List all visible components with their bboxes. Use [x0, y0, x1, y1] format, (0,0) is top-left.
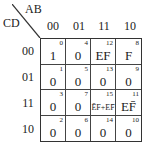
- kmap-cell: 8F: [116, 39, 141, 65]
- cell-value: 0: [91, 125, 115, 141]
- kmap-cell: 60: [66, 116, 91, 142]
- cell-value: 0: [116, 74, 141, 90]
- cell-index: 5: [85, 65, 89, 73]
- kmap-cell: 15ĒF+EF̄: [91, 90, 116, 116]
- cell-value: 0: [66, 74, 90, 90]
- cell-value: EF̄: [116, 99, 141, 115]
- column-header: 00: [40, 19, 66, 34]
- cell-index: 12: [106, 39, 113, 47]
- cell-index: 11: [132, 90, 139, 98]
- cell-index: 15: [106, 90, 113, 98]
- kmap-cell: 140: [91, 116, 116, 142]
- row-header: 01: [16, 70, 40, 85]
- kmap-cell: 50: [66, 65, 91, 91]
- karnaugh-map-grid: 01 40 12EF 8F 10 50 130 90 30 70 15ĒF+E…: [40, 38, 142, 142]
- kmap-cell: 70: [66, 90, 91, 116]
- kmap-cell: 12EF: [91, 39, 116, 65]
- cell-index: 0: [60, 39, 64, 47]
- kmap-cell: 130: [91, 65, 116, 91]
- cell-value: 0: [41, 74, 65, 90]
- kmap-cell: 40: [66, 39, 91, 65]
- column-variable-label: AB: [25, 2, 42, 17]
- column-header: 01: [66, 19, 92, 34]
- cell-index: 3: [60, 90, 64, 98]
- cell-value: 0: [66, 48, 90, 64]
- kmap-cell: 10: [41, 65, 66, 91]
- cell-value: 0: [41, 99, 65, 115]
- column-header: 10: [117, 19, 143, 34]
- cell-index: 1: [60, 65, 64, 73]
- cell-value: 0: [116, 125, 141, 141]
- row-header: 11: [16, 96, 40, 111]
- cell-value: 0: [66, 99, 90, 115]
- cell-value: EF: [91, 48, 115, 64]
- kmap-cell: 20: [41, 116, 66, 142]
- kmap-cell: 11EF̄: [116, 90, 141, 116]
- cell-value: 0: [66, 125, 90, 141]
- row-header: 10: [16, 122, 40, 137]
- cell-value: 0: [41, 125, 65, 141]
- row-header: 00: [16, 44, 40, 59]
- kmap-cell: 100: [116, 116, 141, 142]
- cell-value: ĒF+EF̄: [91, 103, 115, 112]
- cell-value: 1: [41, 48, 65, 64]
- column-header: 11: [91, 19, 117, 34]
- cell-index: 13: [106, 65, 113, 73]
- kmap-cell: 30: [41, 90, 66, 116]
- cell-index: 8: [136, 39, 140, 47]
- cell-value: 0: [91, 74, 115, 90]
- cell-index: 10: [132, 116, 139, 124]
- cell-index: 4: [85, 39, 89, 47]
- cell-index: 2: [60, 116, 64, 124]
- kmap-cell: 01: [41, 39, 66, 65]
- cell-index: 9: [136, 65, 140, 73]
- cell-index: 7: [85, 90, 89, 98]
- cell-index: 14: [106, 116, 113, 124]
- cell-index: 6: [85, 116, 89, 124]
- kmap-cell: 90: [116, 65, 141, 91]
- cell-value: F: [116, 48, 141, 64]
- row-variable-label: CD: [3, 16, 20, 31]
